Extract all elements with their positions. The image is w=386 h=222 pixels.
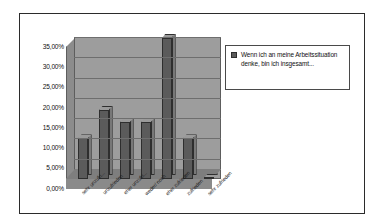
legend-label: Wenn ich an meine Arbeitssituation denke…: [241, 51, 345, 68]
bar-side-face: [130, 118, 134, 175]
bar-front-face: [120, 122, 130, 179]
y-axis-tick-label: 30,00%: [26, 64, 64, 71]
bar-front-face: [204, 177, 214, 179]
y-axis-tick-label: 25,00%: [26, 84, 64, 91]
y-axis-tick-label: 0,00%: [26, 186, 64, 193]
bar-side-face: [88, 134, 92, 175]
chart-frame: 0,00%5,00%10,00%15,00%20,00%25,00%30,00%…: [19, 13, 365, 214]
gridline: [74, 98, 221, 99]
gridline: [74, 159, 221, 160]
gridline: [74, 57, 221, 58]
y-axis: 0,00%5,00%10,00%15,00%20,00%25,00%30,00%…: [22, 14, 64, 215]
y-axis-tick-label: 20,00%: [26, 105, 64, 112]
legend-swatch-icon: [231, 52, 237, 58]
bar-side-face: [151, 118, 155, 175]
y-axis-tick-label: 35,00%: [26, 44, 64, 51]
y-axis-tick-label: 15,00%: [26, 125, 64, 132]
bar-side-face: [172, 34, 176, 175]
bar-side-face: [109, 106, 113, 175]
y-axis-tick-label: 5,00%: [26, 165, 64, 172]
bar: [99, 110, 109, 179]
bar: [204, 178, 214, 179]
bar-layer: [66, 37, 221, 179]
gridline: [74, 37, 221, 38]
y-axis-tick-label: 10,00%: [26, 145, 64, 152]
bar-chart: 0,00%5,00%10,00%15,00%20,00%25,00%30,00%…: [20, 14, 235, 215]
gridline: [74, 78, 221, 79]
bar: [120, 122, 130, 179]
legend-entry: Wenn ich an meine Arbeitssituation denke…: [231, 51, 345, 68]
chart-legend: Wenn ich an meine Arbeitssituation denke…: [225, 45, 350, 90]
bar-front-face: [99, 110, 109, 179]
gridline: [74, 138, 221, 139]
plot-area: [66, 37, 221, 189]
bar-side-face: [193, 134, 197, 175]
gridline: [74, 118, 221, 119]
x-axis-labels: sehr unzufri...unzufriedeneher unzufri..…: [66, 190, 231, 222]
